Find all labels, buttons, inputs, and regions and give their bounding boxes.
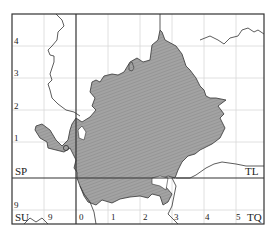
easting-label-3: 3 (174, 213, 179, 222)
northing-label-1: 1 (14, 134, 19, 143)
map-canvas (0, 0, 274, 236)
easting-label-4: 4 (205, 213, 210, 222)
northing-label-4: 4 (14, 37, 19, 46)
square-label-tq: TQ (247, 212, 262, 223)
northing-label-2: 2 (14, 102, 19, 111)
easting-label-5: 5 (236, 213, 241, 222)
square-label-sp: SP (15, 166, 27, 177)
easting-label-9: 9 (48, 213, 53, 222)
shaded-region (35, 30, 226, 205)
square-label-tl: TL (245, 166, 258, 177)
easting-label-0: 0 (79, 213, 84, 222)
easting-label-2: 2 (143, 213, 148, 222)
northing-label-9: 9 (14, 201, 19, 210)
northing-label-3: 3 (14, 69, 19, 78)
easting-label-1: 1 (111, 213, 116, 222)
square-label-su: SU (15, 212, 29, 223)
